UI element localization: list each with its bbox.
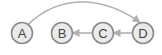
node-c: C <box>93 23 114 44</box>
edges <box>28 2 139 33</box>
edge-a-to-d <box>28 2 139 25</box>
node-label: B <box>58 26 67 41</box>
node-a: A <box>12 23 33 44</box>
node-label: C <box>98 26 107 41</box>
graph-diagram: ABCD <box>0 0 162 55</box>
node-d: D <box>133 23 154 44</box>
node-label: A <box>18 26 27 41</box>
node-b: B <box>52 23 73 44</box>
node-label: D <box>138 26 147 41</box>
